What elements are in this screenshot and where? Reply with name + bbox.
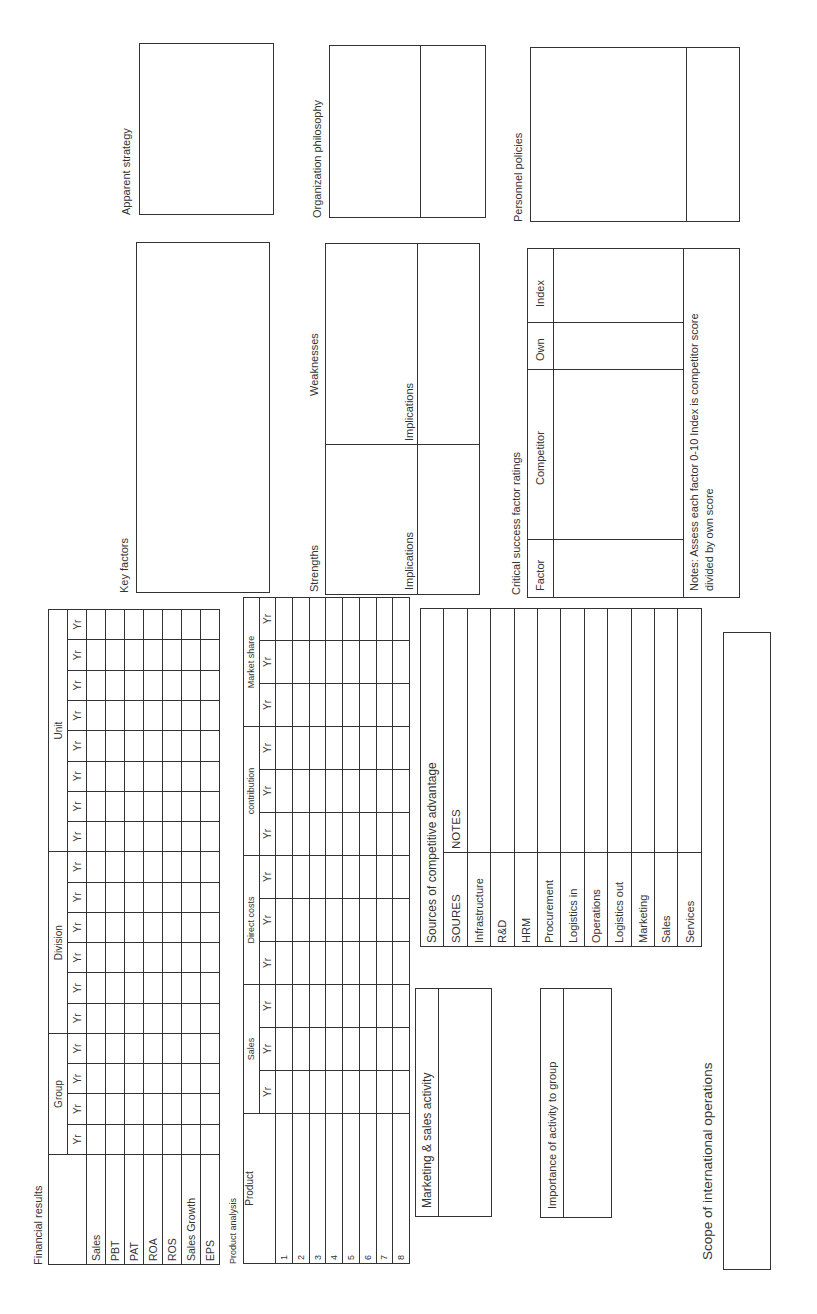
input-cell[interactable]: [201, 640, 220, 670]
input-cell[interactable]: [201, 973, 220, 1003]
input-cell[interactable]: [293, 1071, 310, 1114]
input-cell[interactable]: [393, 727, 410, 770]
input-cell[interactable]: [144, 852, 163, 882]
input-cell[interactable]: [201, 882, 220, 912]
input-cell[interactable]: [326, 727, 343, 770]
input-cell[interactable]: [309, 899, 326, 942]
input-cell[interactable]: [125, 1124, 144, 1154]
input-cell[interactable]: [144, 610, 163, 640]
input-cell[interactable]: [376, 1028, 393, 1071]
input-cell[interactable]: [144, 912, 163, 942]
input-cell[interactable]: [182, 670, 201, 700]
input-cell[interactable]: [144, 731, 163, 761]
input-cell[interactable]: [376, 684, 393, 727]
input-cell[interactable]: [144, 822, 163, 852]
input-cell[interactable]: [293, 856, 310, 899]
input-cell[interactable]: [87, 610, 106, 640]
csf-competitor-field[interactable]: [554, 370, 683, 539]
input-cell[interactable]: [87, 1003, 106, 1033]
personnel-policies-box[interactable]: [530, 47, 740, 222]
notes-cell[interactable]: [514, 609, 537, 853]
input-cell[interactable]: [359, 899, 376, 942]
input-cell[interactable]: [106, 731, 125, 761]
notes-cell[interactable]: [467, 609, 490, 853]
input-cell[interactable]: [106, 1094, 125, 1124]
input-cell[interactable]: [106, 912, 125, 942]
input-cell[interactable]: [201, 1124, 220, 1154]
input-cell[interactable]: [163, 943, 182, 973]
input-cell[interactable]: [276, 727, 293, 770]
input-cell[interactable]: [106, 1064, 125, 1094]
input-cell[interactable]: [125, 1003, 144, 1033]
input-cell[interactable]: [87, 791, 106, 821]
input-cell[interactable]: [163, 761, 182, 791]
input-cell[interactable]: [326, 856, 343, 899]
input-cell[interactable]: [326, 813, 343, 856]
input-cell[interactable]: [144, 943, 163, 973]
input-cell[interactable]: [343, 770, 360, 813]
input-cell[interactable]: [201, 701, 220, 731]
input-cell[interactable]: [144, 1094, 163, 1124]
input-cell[interactable]: [106, 943, 125, 973]
organization-philosophy-box[interactable]: [329, 45, 486, 218]
input-cell[interactable]: [393, 598, 410, 641]
notes-cell[interactable]: [608, 609, 631, 853]
scope-international-box[interactable]: [723, 632, 771, 1270]
input-cell[interactable]: [276, 770, 293, 813]
input-cell[interactable]: [343, 641, 360, 684]
input-cell[interactable]: [343, 598, 360, 641]
input-cell[interactable]: [182, 852, 201, 882]
input-cell[interactable]: [201, 761, 220, 791]
input-cell[interactable]: [125, 670, 144, 700]
input-cell[interactable]: [326, 899, 343, 942]
input-cell[interactable]: [106, 761, 125, 791]
input-cell[interactable]: [376, 985, 393, 1028]
input-cell[interactable]: [125, 791, 144, 821]
input-cell[interactable]: [201, 943, 220, 973]
input-cell[interactable]: [125, 1094, 144, 1124]
input-cell[interactable]: [309, 942, 326, 985]
input-cell[interactable]: [87, 640, 106, 670]
input-cell[interactable]: [125, 701, 144, 731]
input-cell[interactable]: [343, 1071, 360, 1114]
input-cell[interactable]: [359, 641, 376, 684]
input-cell[interactable]: [125, 731, 144, 761]
input-cell[interactable]: [87, 1033, 106, 1063]
input-cell[interactable]: [182, 1124, 201, 1154]
input-cell[interactable]: [163, 1064, 182, 1094]
input-cell[interactable]: [201, 670, 220, 700]
input-cell[interactable]: [87, 1124, 106, 1154]
input-cell[interactable]: [182, 1033, 201, 1063]
input-cell[interactable]: [182, 1094, 201, 1124]
input-cell[interactable]: [125, 640, 144, 670]
csf-own-field[interactable]: [554, 323, 683, 369]
input-cell[interactable]: [201, 731, 220, 761]
input-cell[interactable]: [163, 640, 182, 670]
input-cell[interactable]: [106, 852, 125, 882]
input-cell[interactable]: [106, 973, 125, 1003]
input-cell[interactable]: [293, 684, 310, 727]
input-cell[interactable]: [201, 1033, 220, 1063]
input-cell[interactable]: [343, 942, 360, 985]
input-cell[interactable]: [343, 1028, 360, 1071]
input-cell[interactable]: [376, 813, 393, 856]
input-cell[interactable]: [163, 731, 182, 761]
input-cell[interactable]: [144, 670, 163, 700]
input-cell[interactable]: [182, 822, 201, 852]
input-cell[interactable]: [276, 598, 293, 641]
marketing-sales-activity-box[interactable]: Marketing & sales activity: [415, 988, 492, 1217]
input-cell[interactable]: [182, 973, 201, 1003]
input-cell[interactable]: [125, 822, 144, 852]
input-cell[interactable]: [163, 701, 182, 731]
notes-cell[interactable]: [678, 609, 702, 853]
input-cell[interactable]: [309, 856, 326, 899]
apparent-strategy-box[interactable]: [139, 43, 274, 215]
input-cell[interactable]: [106, 610, 125, 640]
input-cell[interactable]: [182, 640, 201, 670]
input-cell[interactable]: [87, 882, 106, 912]
input-cell[interactable]: [163, 912, 182, 942]
input-cell[interactable]: [309, 598, 326, 641]
input-cell[interactable]: [276, 899, 293, 942]
input-cell[interactable]: [343, 684, 360, 727]
input-cell[interactable]: [201, 852, 220, 882]
